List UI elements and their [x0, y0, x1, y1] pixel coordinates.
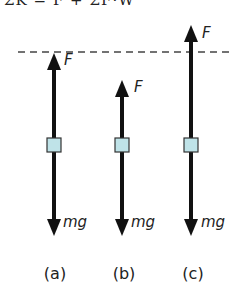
case-label: (b) — [113, 264, 136, 283]
case-label: (c) — [182, 264, 203, 283]
force-label-f: F — [134, 78, 143, 96]
arrowhead-up-icon — [115, 80, 129, 97]
weight-label-mg: mg — [63, 213, 87, 231]
case-a: F mg (a) — [44, 51, 87, 283]
block — [184, 138, 198, 152]
arrowhead-up-icon — [184, 25, 198, 42]
arrowhead-down-icon — [184, 219, 198, 236]
case-b: F mg (b) — [113, 78, 155, 283]
force-label-f: F — [202, 24, 211, 42]
block — [47, 138, 61, 152]
case-c: F mg (c) — [182, 24, 225, 283]
force-diagram: F mg (a) F mg (b) F mg (c) — [0, 0, 249, 288]
weight-label-mg: mg — [131, 213, 155, 231]
weight-label-mg: mg — [201, 213, 225, 231]
force-label-f: F — [64, 51, 73, 69]
arrowhead-up-icon — [47, 53, 61, 70]
arrowhead-down-icon — [115, 219, 129, 236]
block — [115, 138, 129, 152]
arrowhead-down-icon — [47, 219, 61, 236]
case-label: (a) — [44, 264, 66, 283]
